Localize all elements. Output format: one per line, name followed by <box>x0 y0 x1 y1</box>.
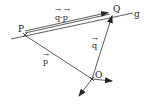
vector-p <box>26 36 92 79</box>
label-g: g <box>134 9 140 19</box>
label-P: P <box>18 24 24 34</box>
label-O: O <box>95 70 102 80</box>
label-p: p → <box>43 51 49 66</box>
vector-arrow-icon: → <box>43 51 49 59</box>
vector-arrow-icon: → <box>55 6 61 14</box>
vector-arrow-icon: → <box>64 6 70 14</box>
label-Q: Q <box>113 4 120 14</box>
svg-text:q-p: q-p <box>55 13 68 22</box>
vector-arrow-icon: → <box>92 35 98 43</box>
vector-diagram: P Q O g q-p → → p → q → <box>0 0 146 104</box>
label-q-minus-p: q-p → → <box>55 6 70 22</box>
line-g <box>11 13 133 39</box>
axis-y-arrow <box>79 79 92 96</box>
label-q: q → <box>92 35 98 50</box>
